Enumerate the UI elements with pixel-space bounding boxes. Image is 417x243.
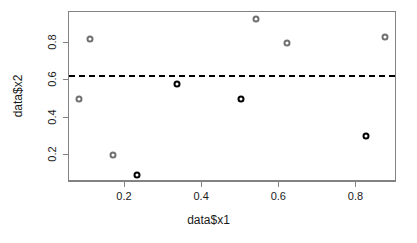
- y-axis-tick: [63, 42, 68, 43]
- data-point: [87, 36, 94, 43]
- x-axis-tick: [278, 182, 279, 187]
- data-point: [284, 39, 291, 46]
- data-layer: [69, 12, 395, 180]
- data-point: [75, 95, 82, 102]
- x-axis-tick: [124, 182, 125, 187]
- data-point: [110, 151, 117, 158]
- y-axis-tick: [63, 79, 68, 80]
- data-point: [363, 133, 370, 140]
- x-axis-line: [68, 181, 396, 182]
- data-point: [382, 34, 389, 41]
- data-point: [133, 172, 140, 179]
- scatter-plot-figure: 0.20.40.60.80.20.40.60.8 data$x1 data$x2: [0, 0, 417, 243]
- x-axis-title: data$x1: [0, 213, 417, 227]
- y-axis-tick-label: 0.4: [46, 109, 58, 124]
- y-axis-tick-label: 0.8: [46, 34, 58, 49]
- y-axis-tick-label: 0.6: [46, 72, 58, 87]
- data-point: [253, 15, 260, 22]
- y-axis-tick: [63, 117, 68, 118]
- x-axis-tick-label: 0.2: [116, 190, 131, 202]
- data-point: [174, 80, 181, 87]
- threshold-line: [69, 75, 395, 77]
- x-axis-tick-label: 0.6: [271, 190, 286, 202]
- plot-panel: [68, 11, 396, 181]
- x-axis-tick: [201, 182, 202, 187]
- y-axis-tick: [63, 154, 68, 155]
- y-axis-tick-label: 0.2: [46, 146, 58, 161]
- data-point: [237, 95, 244, 102]
- x-axis-tick-label: 0.8: [348, 190, 363, 202]
- y-axis-line: [68, 11, 69, 181]
- x-axis-tick: [355, 182, 356, 187]
- y-axis-title: data$x2: [11, 75, 25, 118]
- x-axis-tick-label: 0.4: [193, 190, 208, 202]
